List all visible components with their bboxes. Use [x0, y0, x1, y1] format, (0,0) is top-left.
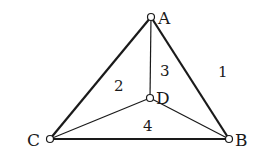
node-label-d: D — [156, 88, 170, 108]
region-label-3: 3 — [160, 62, 170, 80]
node-c — [47, 136, 54, 143]
node-d — [147, 95, 154, 102]
node-label-b: B — [235, 130, 248, 150]
edge-c-d — [50, 98, 150, 139]
edge-a-c — [50, 17, 151, 139]
node-a — [148, 14, 155, 21]
node-b — [226, 136, 233, 143]
region-label-2: 2 — [114, 77, 124, 95]
region-label-1: 1 — [218, 63, 228, 81]
planar-graph-diagram: A B C D 1 2 3 4 — [0, 0, 265, 161]
node-label-a: A — [157, 8, 171, 28]
edge-a-d — [150, 17, 151, 98]
region-label-4: 4 — [143, 117, 153, 135]
node-label-c: C — [27, 130, 40, 150]
